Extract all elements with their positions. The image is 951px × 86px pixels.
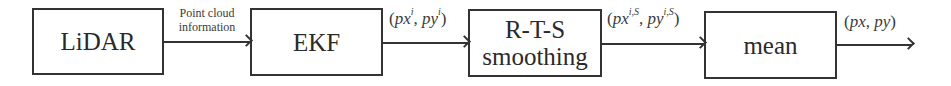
final-output-label: (px, py) bbox=[844, 12, 896, 32]
smoothing-label: smoothing bbox=[482, 43, 588, 70]
information-text: information bbox=[172, 20, 242, 34]
py-symbol: py bbox=[874, 12, 890, 31]
py-superscript: i,S bbox=[664, 6, 674, 17]
arrow-ekf-to-rts bbox=[383, 42, 468, 44]
ekf-box: EKF bbox=[250, 8, 383, 76]
point-cloud-information-label: Point cloud information bbox=[172, 6, 242, 34]
px-superscript: i bbox=[411, 6, 414, 17]
lidar-label: LiDAR bbox=[61, 28, 136, 55]
ekf-output-label: (pxi, pyi) bbox=[389, 9, 447, 29]
close-paren: ) bbox=[441, 9, 447, 28]
py-superscript: i bbox=[438, 6, 441, 17]
separator: , bbox=[639, 9, 648, 28]
px-symbol: px bbox=[613, 9, 629, 28]
rts-label: R-T-S bbox=[505, 16, 565, 43]
px-symbol: px bbox=[395, 9, 411, 28]
py-symbol: py bbox=[648, 9, 664, 28]
close-paren: ) bbox=[674, 9, 680, 28]
separator: , bbox=[414, 9, 423, 28]
ekf-label: EKF bbox=[293, 29, 340, 56]
arrow-rts-to-mean bbox=[602, 43, 704, 45]
py-symbol: py bbox=[422, 9, 438, 28]
px-superscript: i,S bbox=[629, 6, 639, 17]
close-paren: ) bbox=[890, 12, 896, 31]
rts-output-label: (pxi,S, pyi,S) bbox=[607, 9, 680, 29]
mean-label: mean bbox=[743, 32, 797, 59]
px-symbol: px bbox=[850, 12, 866, 31]
lidar-box: LiDAR bbox=[32, 8, 164, 75]
separator: , bbox=[866, 12, 875, 31]
arrow-lidar-to-ekf bbox=[164, 41, 250, 43]
rts-smoothing-box: R-T-S smoothing bbox=[468, 9, 602, 77]
mean-box: mean bbox=[704, 11, 837, 79]
arrow-mean-to-output bbox=[837, 44, 912, 46]
point-cloud-text: Point cloud bbox=[172, 6, 242, 20]
